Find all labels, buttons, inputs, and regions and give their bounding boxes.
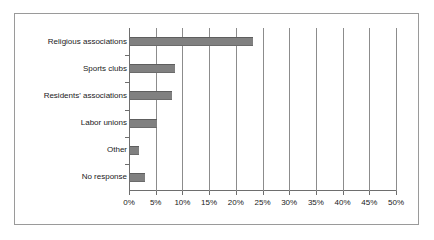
y-axis-tick (125, 82, 129, 83)
bar (130, 146, 139, 155)
y-axis-tick (125, 110, 129, 111)
x-axis-tick (156, 191, 157, 195)
y-axis-category-labels: Religious associationsSports clubsReside… (15, 28, 127, 191)
x-axis-tick (129, 191, 130, 195)
x-axis-tick (236, 191, 237, 195)
category-label: Sports clubs (15, 64, 127, 74)
gridline-45% (369, 28, 370, 191)
chart-frame: Religious associationsSports clubsReside… (14, 13, 419, 225)
x-axis-tick (369, 191, 370, 195)
x-axis-tick (316, 191, 317, 195)
category-label: Other (15, 145, 127, 155)
x-axis-tick (209, 191, 210, 195)
plot-area (129, 28, 396, 191)
category-label: Religious associations (15, 37, 127, 47)
bar (130, 173, 145, 182)
x-axis-label: 50% (376, 198, 416, 207)
gridline-10% (182, 28, 183, 191)
gridline-30% (289, 28, 290, 191)
gridline-50% (396, 28, 397, 191)
bar (130, 91, 172, 100)
category-label: Residents' associations (15, 91, 127, 101)
x-axis-tick (263, 191, 264, 195)
gridline-40% (343, 28, 344, 191)
y-axis-tick (125, 55, 129, 56)
y-axis-line (129, 28, 130, 191)
category-label: Labor unions (15, 118, 127, 128)
x-axis-tick-labels: 0%5%10%15%20%25%30%35%40%45%50% (129, 198, 397, 212)
gridline-15% (209, 28, 210, 191)
x-axis-ticks (129, 191, 397, 196)
y-axis-tick (125, 137, 129, 138)
x-axis-tick (182, 191, 183, 195)
bar (130, 119, 157, 128)
x-axis-tick (343, 191, 344, 195)
x-axis-tick (396, 191, 397, 195)
y-axis-tick (125, 164, 129, 165)
gridline-25% (263, 28, 264, 191)
gridline-20% (236, 28, 237, 191)
x-axis-tick (289, 191, 290, 195)
gridline-35% (316, 28, 317, 191)
bar (130, 37, 253, 46)
gridline-5% (156, 28, 157, 191)
bar (130, 64, 175, 73)
category-label: No response (15, 172, 127, 182)
